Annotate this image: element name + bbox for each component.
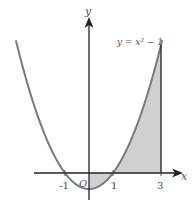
tick-label-1: 1 (111, 180, 117, 191)
function-label: y = x² − 1 (116, 37, 163, 47)
parabola-chart: x y O -1 1 3 y = x² − 1 (0, 0, 196, 206)
tick-label-3: 3 (157, 180, 163, 191)
y-axis-label: y (84, 5, 92, 18)
tick-label-neg1: -1 (59, 180, 69, 191)
shaded-region-path (89, 45, 161, 189)
shaded-area (89, 45, 161, 189)
origin-label: O (79, 178, 87, 189)
x-axis-label: x (181, 170, 188, 183)
